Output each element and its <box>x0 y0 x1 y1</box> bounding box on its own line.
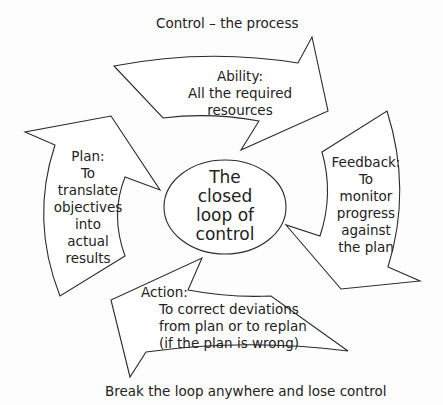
ability-label: Ability: All the required resources <box>170 68 310 119</box>
plan-heading: Plan: <box>48 148 128 165</box>
feedback-text-line: progress <box>326 205 406 222</box>
diagram-canvas: Control – the process Ability: All the r… <box>0 0 443 405</box>
plan-text-line: translate <box>48 182 128 199</box>
center-text-line: The <box>175 168 275 187</box>
plan-text-line: into <box>48 216 128 233</box>
plan-text-line: To <box>48 165 128 182</box>
diagram-footer: Break the loop anywhere and lose control <box>105 383 386 399</box>
feedback-text-line: monitor <box>326 188 406 205</box>
plan-text-line: actual <box>48 233 128 250</box>
action-heading: Action: <box>141 284 341 301</box>
feedback-text-line: To <box>326 171 406 188</box>
action-text-line: from plan or to replan <box>141 318 341 335</box>
ability-text-line: resources <box>170 102 310 119</box>
feedback-label: Feedback: To monitor progress against th… <box>326 154 406 256</box>
action-text-line: (if the plan is wrong) <box>141 335 341 352</box>
ability-heading: Ability: <box>170 68 310 85</box>
feedback-text-line: against <box>326 222 406 239</box>
diagram-title: Control – the process <box>156 15 298 31</box>
plan-label: Plan: To translate objectives into actua… <box>48 148 128 267</box>
plan-text-line: objectives <box>48 199 128 216</box>
feedback-heading: Feedback: <box>326 154 406 171</box>
action-label: Action: To correct deviations from plan … <box>141 284 341 352</box>
center-label: The closed loop of control <box>175 168 275 244</box>
center-text-line: loop of <box>175 206 275 225</box>
center-text-line: closed <box>175 187 275 206</box>
plan-text-line: results <box>48 250 128 267</box>
feedback-text-line: the plan <box>326 239 406 256</box>
center-text-line: control <box>175 225 275 244</box>
ability-text-line: All the required <box>170 85 310 102</box>
action-text-line: To correct deviations <box>141 301 341 318</box>
